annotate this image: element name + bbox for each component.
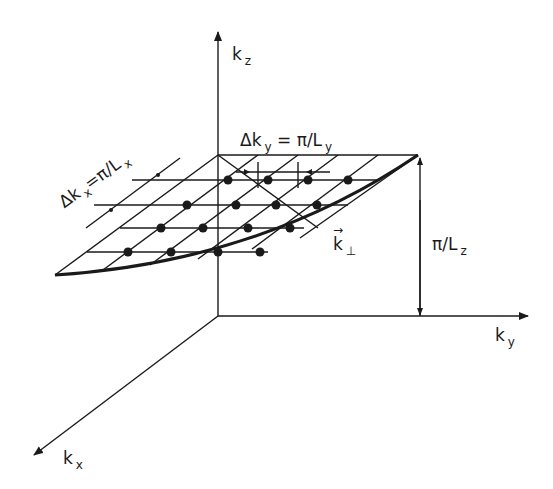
ky-axis-label: ky (495, 327, 515, 344)
k-space-diagram (0, 0, 553, 489)
kz-axis-label: kz (232, 46, 251, 63)
kx-axis-label: kx (63, 450, 83, 467)
kx-axis (34, 316, 218, 455)
lattice-points (124, 176, 353, 257)
delta-ky-label: Δky = π/Ly (240, 132, 332, 149)
pi-lz-label: π/Lz (432, 236, 467, 253)
k-perp-label: → k⊥ (333, 236, 356, 253)
